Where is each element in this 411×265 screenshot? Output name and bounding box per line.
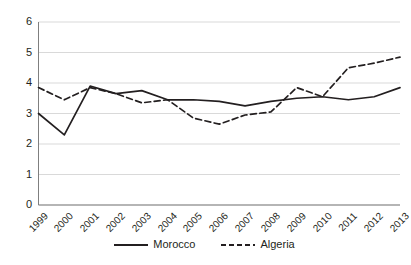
y-tick-label: 0 [14, 199, 32, 210]
y-tick-label: 5 [14, 47, 32, 58]
y-tick-label: 1 [14, 169, 32, 180]
legend-item-algeria: Algeria [221, 239, 294, 250]
y-tick-label: 2 [14, 138, 32, 149]
legend-line-solid-icon [114, 241, 148, 249]
legend-line-dashed-icon [221, 241, 255, 249]
legend-item-morocco: Morocco [114, 239, 195, 250]
y-tick-label: 4 [14, 77, 32, 88]
series-line-morocco [39, 86, 401, 135]
legend-label-morocco: Morocco [153, 239, 195, 250]
y-tick-label: 6 [14, 16, 32, 27]
gridlines [39, 22, 401, 205]
y-tick-label: 3 [14, 108, 32, 119]
chart-legend: Morocco Algeria [0, 239, 409, 250]
series-lines [39, 57, 401, 135]
legend-label-algeria: Algeria [260, 239, 294, 250]
series-line-algeria [39, 57, 401, 124]
